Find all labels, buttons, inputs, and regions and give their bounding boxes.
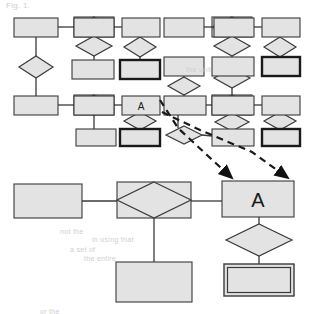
entity-box [164, 96, 206, 115]
relationship-diamond [19, 56, 53, 78]
relationship-diamond [117, 182, 191, 218]
relationship-diamond [76, 36, 112, 56]
entity-box [262, 129, 300, 146]
entity-label: A [251, 189, 265, 211]
entity-box [120, 60, 160, 79]
entity-box [76, 129, 116, 146]
entity-box [72, 60, 114, 79]
overview-entity-group: A [14, 18, 300, 146]
entity-box [122, 18, 160, 37]
entity-box [262, 57, 300, 76]
entity-box [262, 18, 300, 37]
entity-box [212, 96, 254, 115]
entity-label: A [138, 101, 145, 112]
er-diagram-canvas: A A [0, 0, 310, 314]
entity-box [164, 57, 204, 76]
entity-a: A [222, 181, 294, 217]
entity-box [14, 18, 58, 37]
entity-box [74, 96, 114, 115]
relationship-diamond [168, 77, 200, 95]
relationship-diamond [124, 37, 156, 57]
er-diagram-figure: A A Fig. 1.the unitnot thein using thata… [0, 0, 310, 314]
entity-a: A [122, 96, 160, 115]
entity-box [116, 262, 192, 302]
entity-box [212, 57, 254, 76]
relationship-diamond [226, 224, 292, 256]
relationship-diamond [214, 36, 250, 56]
entity-box [164, 18, 204, 37]
entity-box [14, 184, 82, 218]
entity-box [262, 96, 300, 115]
relationship-diamond [264, 37, 296, 57]
relationship-diamond [215, 113, 249, 131]
entity-box [120, 129, 160, 146]
entity-box [74, 18, 114, 37]
entity-box [14, 96, 58, 115]
entity-box [214, 18, 254, 37]
entity-box [224, 264, 294, 296]
